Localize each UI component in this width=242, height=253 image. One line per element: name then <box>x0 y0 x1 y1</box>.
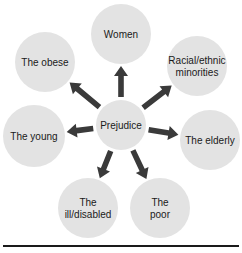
arrow-to-racial-icon <box>141 86 171 110</box>
node-ill-label: The <box>79 197 97 208</box>
node-racial-label: Racial/ethnic <box>168 55 225 66</box>
node-poor-label: poor <box>150 209 171 220</box>
node-poor-label: The <box>151 197 169 208</box>
node-young-label: The young <box>10 131 57 142</box>
arrow-to-women-icon <box>114 66 128 97</box>
node-obese-label: The obese <box>21 57 69 68</box>
node-racial-label: minorities <box>176 67 219 78</box>
arrow-to-ill-icon <box>97 150 113 178</box>
node-elderly-label: The elderly <box>185 135 234 146</box>
node-women-label: Women <box>104 29 138 40</box>
arrow-to-poor-icon <box>130 149 148 179</box>
prejudice-diagram: PrejudiceWomenRacial/ethnicminoritiesThe… <box>0 0 242 253</box>
center-node-prejudice-label: Prejudice <box>100 120 142 131</box>
arrow-to-elderly-icon <box>148 126 178 140</box>
arrow-to-obese-icon <box>70 82 102 109</box>
arrow-to-young-icon <box>67 124 94 138</box>
node-ill-label: ill/disabled <box>65 209 112 220</box>
